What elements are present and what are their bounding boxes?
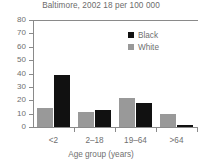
bar-black-3 (177, 125, 193, 127)
bar-black-1 (95, 110, 111, 127)
legend-item: Black (128, 29, 159, 41)
plot-area (33, 20, 197, 127)
bar-black-0 (54, 75, 70, 127)
legend-item: White (128, 41, 159, 53)
x-axis-tick-label: >64 (153, 136, 201, 145)
y-axis-tick-label: 0 (0, 123, 26, 131)
legend-swatch-icon (128, 44, 134, 50)
y-axis-tick-label: 30 (0, 83, 26, 91)
x-axis-tick (115, 128, 116, 132)
y-axis-tick-label: 70 (0, 29, 26, 37)
x-axis-tick (156, 128, 157, 132)
bar-white-2 (119, 98, 135, 127)
bar-white-0 (37, 108, 53, 127)
y-axis-tick-label: 20 (0, 96, 26, 104)
y-axis-tick-label: 10 (0, 110, 26, 118)
x-axis-tick (197, 128, 198, 132)
chart-legend: BlackWhite (128, 29, 159, 53)
bar-black-2 (136, 103, 152, 127)
legend-label: White (138, 43, 159, 52)
x-axis-tick (74, 128, 75, 132)
y-axis-tick (29, 127, 33, 128)
bar-white-1 (78, 112, 94, 127)
chart-container: Baltimore, 2002 18 per 100 000 010203040… (0, 0, 202, 165)
x-axis-title: Age group (years) (0, 150, 202, 159)
y-axis-tick-label: 50 (0, 56, 26, 64)
legend-label: Black (138, 31, 158, 40)
y-axis-tick-label: 80 (0, 16, 26, 24)
chart-title: Baltimore, 2002 18 per 100 000 (0, 1, 202, 10)
legend-swatch-icon (128, 32, 134, 38)
y-axis-tick-label: 60 (0, 43, 26, 51)
bar-white-3 (160, 114, 176, 127)
y-axis-tick-label: 40 (0, 70, 26, 78)
